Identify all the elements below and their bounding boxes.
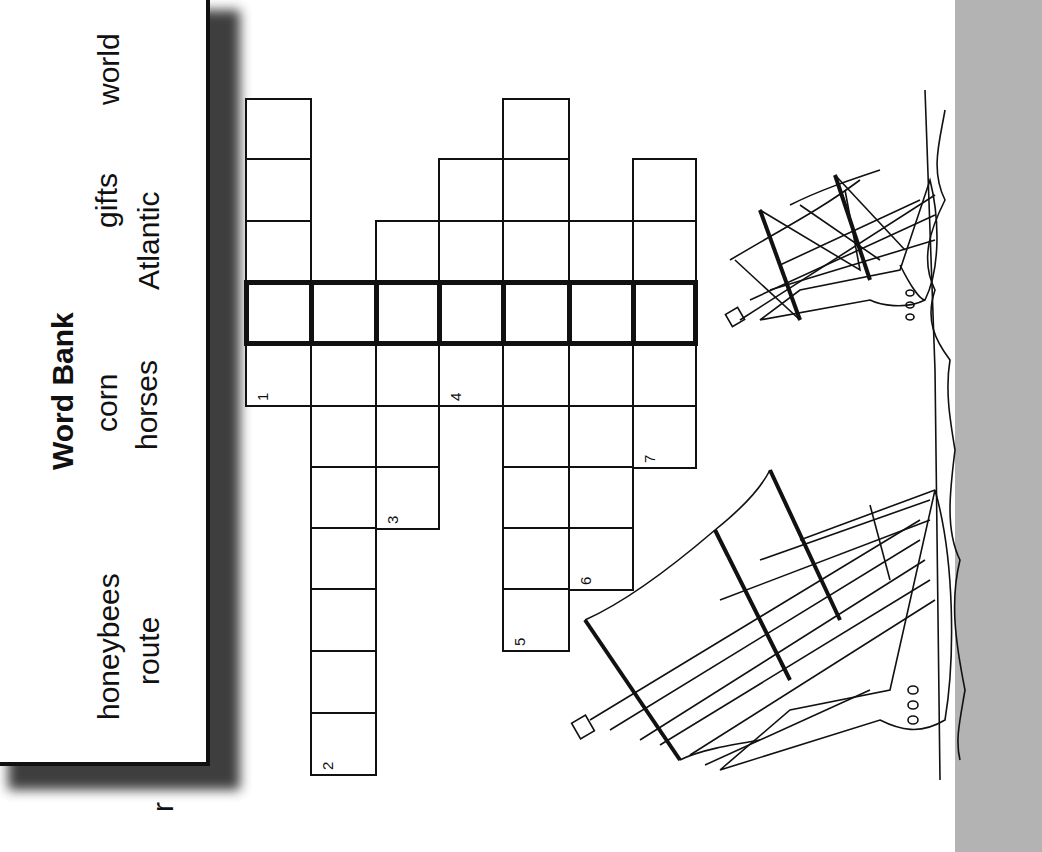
crossword-cell[interactable]: [502, 220, 570, 284]
crossword-cell[interactable]: 1: [245, 343, 312, 407]
word-bank-box: Word Bank honeybees route corn horses gi…: [0, 0, 210, 766]
crossword-cell[interactable]: [245, 98, 312, 162]
crossword-cell[interactable]: [310, 281, 377, 345]
word-corn: corn: [92, 374, 122, 432]
crossword-cell[interactable]: [245, 281, 312, 345]
crossword-cell[interactable]: [310, 343, 377, 407]
crossword-cell[interactable]: [502, 527, 570, 591]
word-atlantic: Atlantic: [134, 192, 164, 290]
crossword-cell[interactable]: [438, 220, 504, 284]
crossword-cell[interactable]: [310, 405, 377, 469]
word-honeybees: honeybees: [94, 573, 124, 720]
clue-number-5: 5: [512, 638, 527, 646]
crossword-cell[interactable]: [502, 98, 570, 162]
highlighted-row-divider: [437, 281, 442, 345]
crossword-cell[interactable]: [438, 158, 504, 222]
crossword-cell[interactable]: [310, 527, 377, 591]
partial-text-r: r: [148, 802, 178, 812]
crossword-cell[interactable]: [502, 343, 570, 407]
crossword-cell[interactable]: 3: [375, 466, 440, 530]
crossword-cell[interactable]: [375, 220, 440, 284]
clue-number-1: 1: [255, 393, 270, 401]
word-world: world: [94, 33, 124, 105]
word-gifts: gifts: [92, 173, 122, 228]
word-route: route: [134, 617, 164, 685]
sailing-ships-illustration: [570, 80, 970, 780]
crossword-cell[interactable]: [310, 466, 377, 530]
word-horses: horses: [132, 360, 162, 450]
crossword-cell[interactable]: [502, 466, 570, 530]
highlighted-row-divider: [374, 281, 379, 345]
highlighted-row-divider: [501, 281, 506, 345]
crossword-cell[interactable]: [502, 281, 570, 345]
crossword-cell[interactable]: [310, 650, 377, 714]
crossword-cell[interactable]: [375, 405, 440, 469]
crossword-cell[interactable]: [502, 405, 570, 469]
ship-hull-lower: [720, 490, 952, 770]
crossword-cell[interactable]: [438, 281, 504, 345]
word-bank-title: Word Bank: [48, 312, 78, 470]
crossword-cell[interactable]: [375, 281, 440, 345]
crossword-cell[interactable]: 4: [438, 343, 504, 407]
clue-number-3: 3: [385, 516, 400, 524]
crossword-cell[interactable]: 5: [502, 588, 570, 652]
crossword-cell[interactable]: [375, 343, 440, 407]
crossword-cell[interactable]: [245, 220, 312, 284]
crossword-cell[interactable]: 2: [310, 712, 377, 776]
crossword-cell[interactable]: [245, 158, 312, 222]
clue-number-2: 2: [320, 762, 335, 770]
clue-number-4: 4: [448, 393, 463, 401]
highlighted-row-divider: [309, 281, 314, 345]
crossword-cell[interactable]: [310, 588, 377, 652]
crossword-cell[interactable]: [502, 158, 570, 222]
